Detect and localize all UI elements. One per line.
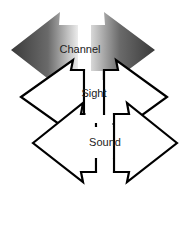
channel-label: Channel — [60, 43, 101, 55]
sight-label: Sight — [81, 87, 106, 99]
sound-center-gap-top — [98, 115, 113, 126]
sound-right-arrowhead — [114, 103, 177, 182]
sound-label: Sound — [89, 136, 121, 148]
sound-center-gap-bottom — [98, 159, 113, 171]
